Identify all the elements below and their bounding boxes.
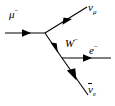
muon-arrowhead-icon [22, 29, 31, 37]
muon-neutrino-arrowhead-icon [63, 17, 73, 24]
label-w-boson-superscript: − [74, 36, 78, 44]
electron-antineutrino-arrowhead-icon [67, 68, 77, 80]
label-muon-neutrino: νμ [88, 2, 96, 16]
label-w-boson: W− [65, 37, 78, 49]
label-muon-superscript: − [15, 7, 19, 15]
label-muon-neutrino-subscript: μ [93, 8, 97, 16]
label-electron-antineutrino-subscript: e [93, 90, 96, 98]
feynman-diagram: μ− νμ W− e− νe [0, 0, 115, 106]
label-w-boson-base: W [65, 37, 74, 49]
electron-line [62, 54, 111, 62]
label-electron: e− [89, 44, 98, 56]
label-electron-antineutrino-base: ν [88, 84, 93, 95]
w-boson-arrowhead-icon [50, 43, 58, 54]
muon-neutrino-line [45, 7, 87, 33]
label-electron-antineutrino: νe [88, 84, 96, 98]
muon-line [5, 29, 45, 37]
label-electron-superscript: − [94, 43, 98, 51]
electron-antineutrino-line [62, 58, 88, 95]
w-boson-line [45, 33, 62, 58]
label-muon: μ− [9, 8, 18, 20]
